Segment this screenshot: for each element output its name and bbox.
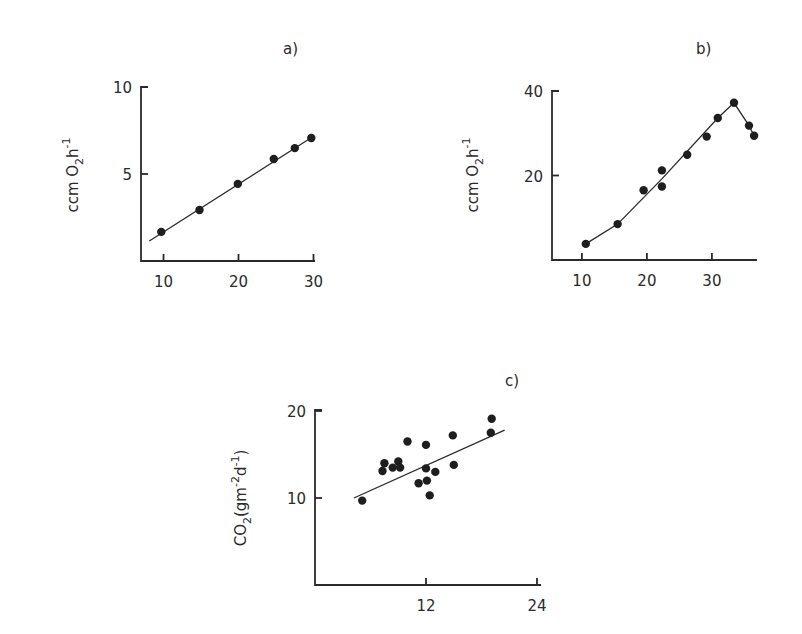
trend-line bbox=[354, 430, 505, 498]
y-tick-label: 40 bbox=[524, 83, 543, 101]
panel-label: a) bbox=[283, 40, 298, 58]
panel-a-chart: 510102030a)ccm O2h-1 bbox=[60, 40, 323, 291]
x-tick-label: 10 bbox=[154, 273, 173, 291]
y-tick-label: 20 bbox=[287, 403, 306, 421]
trend-line bbox=[586, 103, 754, 244]
data-point bbox=[380, 459, 388, 467]
data-point bbox=[195, 206, 203, 214]
data-point bbox=[745, 121, 753, 129]
panel-c-chart: 10201224c)CO2(gm-2d-1) bbox=[229, 372, 547, 615]
y-tick-label: 5 bbox=[122, 166, 132, 184]
data-point bbox=[423, 476, 431, 484]
y-axis-label: ccm O2h-1 bbox=[60, 137, 86, 212]
data-point bbox=[403, 437, 411, 445]
data-point bbox=[658, 182, 666, 190]
x-tick-label: 20 bbox=[637, 272, 656, 290]
data-point bbox=[487, 429, 495, 437]
y-tick-label: 10 bbox=[287, 490, 306, 508]
panel-b-chart: 2040102030b)ccm O2h-1 bbox=[460, 40, 758, 290]
data-point bbox=[582, 240, 590, 248]
x-tick-label: 10 bbox=[572, 272, 591, 290]
data-point bbox=[431, 468, 439, 476]
data-point bbox=[291, 144, 299, 152]
data-point bbox=[703, 132, 711, 140]
x-tick-label: 24 bbox=[527, 597, 546, 615]
data-point bbox=[450, 461, 458, 469]
data-point bbox=[157, 228, 165, 236]
data-point bbox=[639, 186, 647, 194]
data-point bbox=[307, 134, 315, 142]
axes-frame bbox=[141, 87, 315, 261]
y-axis-label: CO2(gm-2d-1) bbox=[229, 450, 254, 547]
x-tick-label: 30 bbox=[304, 273, 323, 291]
data-point bbox=[730, 99, 738, 107]
data-point bbox=[422, 441, 430, 449]
data-point bbox=[613, 220, 621, 228]
panel-label: c) bbox=[505, 372, 519, 390]
data-point bbox=[358, 496, 366, 504]
data-point bbox=[422, 464, 430, 472]
trend-line bbox=[149, 136, 314, 241]
y-tick-label: 20 bbox=[524, 168, 543, 186]
x-tick-label: 12 bbox=[416, 597, 435, 615]
data-point bbox=[414, 479, 422, 487]
y-axis-label: ccm O2h-1 bbox=[460, 137, 486, 212]
data-point bbox=[658, 166, 666, 174]
figure: 510102030a)ccm O2h-1 2040102030b)ccm O2h… bbox=[0, 0, 802, 634]
y-tick-label: 10 bbox=[113, 79, 132, 97]
data-point bbox=[426, 491, 434, 499]
axes-frame bbox=[552, 91, 757, 260]
data-point bbox=[234, 180, 242, 188]
panel-label: b) bbox=[696, 40, 711, 58]
data-point bbox=[683, 151, 691, 159]
x-tick-label: 30 bbox=[702, 272, 721, 290]
data-point bbox=[714, 114, 722, 122]
data-point bbox=[378, 467, 386, 475]
data-point bbox=[750, 132, 758, 140]
data-point bbox=[270, 155, 278, 163]
data-point bbox=[488, 415, 496, 423]
x-tick-label: 20 bbox=[229, 273, 248, 291]
data-point bbox=[396, 463, 404, 471]
data-point bbox=[449, 431, 457, 439]
